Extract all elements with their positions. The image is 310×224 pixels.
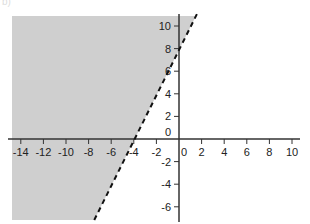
y-tick-label: -2 — [161, 156, 171, 168]
inequality-graph: -14-12-10-8-6-4-20246810-6-4-20246810 — [0, 0, 310, 224]
y-tick-label: 10 — [159, 20, 171, 32]
x-tick-label: -10 — [58, 146, 74, 158]
y-tick-label: -6 — [161, 201, 171, 213]
x-tick-label: -4 — [129, 146, 139, 158]
y-tick-label: -4 — [161, 178, 171, 190]
x-tick-label: 0 — [181, 146, 187, 158]
x-tick-label: -2 — [152, 146, 162, 158]
x-tick-label: 10 — [286, 146, 298, 158]
x-tick-label: -8 — [84, 146, 94, 158]
x-tick-label: 8 — [266, 146, 272, 158]
x-tick-label: -12 — [35, 146, 51, 158]
x-tick-label: 4 — [221, 146, 227, 158]
y-tick-label: 8 — [165, 43, 171, 55]
y-tick-label: 2 — [165, 110, 171, 122]
y-tick-label: 4 — [165, 88, 171, 100]
x-tick-label: 6 — [244, 146, 250, 158]
x-tick-label: -14 — [13, 146, 29, 158]
x-tick-label: 2 — [199, 146, 205, 158]
x-tick-label: -6 — [106, 146, 116, 158]
y-tick-label: 0 — [165, 126, 171, 138]
